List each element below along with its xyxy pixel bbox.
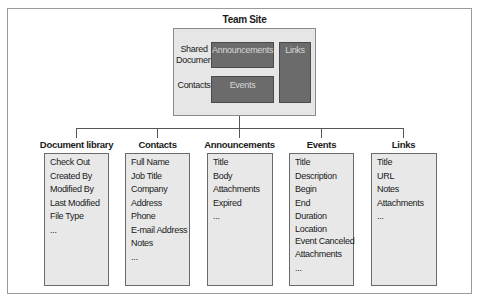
list-box-events: Title Description Begin End Duration Loc…: [289, 153, 354, 286]
announcements-webpart: Announcements: [211, 42, 274, 68]
field: Created By: [50, 170, 108, 184]
events-webpart: Events: [211, 76, 274, 103]
field: Company: [131, 183, 189, 197]
connector-drop: [321, 128, 322, 138]
list-box-announcements: Title Body Attachments Expired ...: [207, 153, 273, 286]
field: Full Name: [131, 156, 189, 170]
connector-trunk: [239, 116, 240, 128]
field: ...: [377, 210, 436, 224]
field: ...: [213, 210, 272, 224]
field: Notes: [377, 183, 436, 197]
field: ...: [131, 251, 189, 265]
field: ...: [295, 262, 353, 276]
connector-drop: [76, 128, 77, 138]
field: Attachments: [295, 248, 353, 262]
list-title-contacts: Contacts: [111, 139, 204, 150]
field: Attachments: [377, 197, 436, 211]
field: Begin: [295, 183, 353, 197]
field: Title: [377, 156, 436, 170]
contacts-label: Contacts: [176, 80, 212, 91]
field: File Type: [50, 210, 108, 224]
field: Attachments: [213, 183, 272, 197]
root-title: Team Site: [173, 14, 316, 25]
field: Body: [213, 170, 272, 184]
field: Event Canceled: [295, 235, 353, 249]
field: Duration: [295, 210, 353, 224]
field: Job Title: [131, 170, 189, 184]
field: Location: [295, 224, 353, 235]
field: Check Out: [50, 156, 108, 170]
field: Phone: [131, 210, 189, 224]
shared-documents-label: Shared Documents: [176, 44, 212, 66]
field: Address: [131, 197, 189, 211]
list-box-document-library: Check Out Created By Modified By Last Mo…: [44, 153, 109, 286]
field: Modified By: [50, 183, 108, 197]
connector-drop: [403, 128, 404, 138]
field: Last Modified: [50, 197, 108, 211]
field: Expired: [213, 197, 272, 211]
field: Title: [295, 156, 353, 170]
list-box-contacts: Full Name Job Title Company Address Phon…: [125, 153, 190, 286]
list-title-links: Links: [357, 139, 450, 150]
list-title-document-library: Document library: [30, 139, 123, 150]
field: Notes: [131, 237, 189, 251]
field: Title: [213, 156, 272, 170]
links-webpart: Links: [279, 42, 311, 103]
field: ...: [50, 224, 108, 238]
field: URL: [377, 170, 436, 184]
list-title-announcements: Announcements: [193, 139, 286, 150]
field: E-mail Address: [131, 224, 189, 238]
list-title-events: Events: [275, 139, 368, 150]
connector-drop: [239, 128, 240, 138]
list-box-links: Title URL Notes Attachments ...: [371, 153, 437, 286]
field: End: [295, 197, 353, 211]
connector-bar: [76, 128, 404, 129]
field: Description: [295, 170, 353, 184]
connector-drop: [157, 128, 158, 138]
